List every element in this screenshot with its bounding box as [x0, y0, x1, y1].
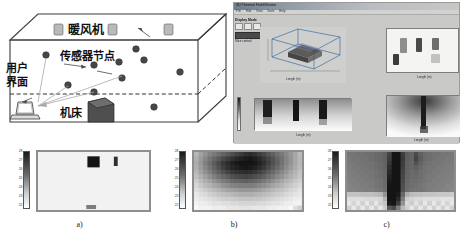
caption-a: a) [2, 220, 157, 229]
plot-top-view[interactable] [386, 28, 459, 73]
menu-item-edit[interactable]: Edit [246, 9, 252, 13]
label-heater: 暖风机 [68, 22, 104, 37]
colorbar-a-ticks: 28 27 26 25 24 23 22 [8, 150, 22, 210]
colorbar-c-ticks: 28 27 26 25 24 23 22 [317, 150, 331, 210]
checkbox-x[interactable] [235, 23, 243, 30]
plot-3d-svg [260, 27, 346, 83]
window-body: Display Mode Slice control [234, 15, 459, 144]
blob-5 [431, 54, 440, 63]
room-schematic-diagram: 暖风机 传感器节点 用户 界面 机床 [2, 2, 230, 142]
control-panel-heading: Display Mode [235, 18, 261, 22]
plot-section-view-xlabel: Length (m) [414, 138, 429, 142]
control-panel[interactable]: Display Mode Slice control [235, 18, 261, 43]
room-top-face [10, 14, 226, 40]
cb-b-tick-3: 25 [175, 176, 178, 180]
cb-a-tick-6: 22 [19, 203, 22, 207]
checkbox-y[interactable] [244, 23, 252, 30]
plot-3d-xlabel: Length (m) [286, 77, 301, 81]
menu-item-view[interactable]: View [256, 9, 263, 13]
label-machine-tool: 机床 [60, 106, 83, 120]
leader-line-machine [97, 71, 112, 74]
blob-3 [416, 38, 422, 52]
figure-container: 暖风机 传感器节点 用户 界面 机床 3D Thermal Field Moni… [0, 0, 464, 241]
plot-section-svg [387, 96, 460, 137]
cb-b-tick-4: 24 [175, 185, 178, 189]
subfigure-a: 28 27 26 25 24 23 22 a) [2, 148, 157, 241]
plot-strip-view[interactable] [254, 98, 351, 130]
colorbar-c-strip [332, 151, 339, 209]
cb-a-tick-1: 27 [19, 158, 22, 162]
plot-strip-view-xlabel: Length (m) [296, 133, 311, 137]
blob-4 [432, 38, 438, 50]
cb-c-tick-4: 24 [328, 185, 331, 189]
subfigure-c: 28 27 26 25 24 23 22 c) [311, 148, 462, 241]
software-window[interactable]: 3D Thermal Field Monitor File Edit View … [233, 2, 460, 143]
heatmap-b[interactable] [192, 150, 304, 212]
cb-a-tick-4: 24 [19, 185, 22, 189]
plot-section-view[interactable] [386, 95, 459, 136]
colorbar-b-strip [179, 151, 186, 209]
floor-plane-line-right [198, 68, 226, 94]
machine-tool-icon [88, 98, 114, 122]
colorbar-b-ticks: 28 27 26 25 24 23 22 [164, 150, 178, 210]
menu-item-file[interactable]: File [236, 9, 241, 13]
cb-c-tick-1: 27 [328, 158, 331, 162]
cb-a-tick-0: 28 [19, 149, 22, 153]
colorbar-c: 28 27 26 25 24 23 22 [317, 150, 343, 210]
cb-b-tick-6: 22 [175, 203, 178, 207]
menu-item-tools[interactable]: Tools [267, 9, 274, 13]
control-panel-caption: Slice control [235, 40, 261, 43]
menu-item-help[interactable]: Help [279, 9, 286, 13]
blob-1 [393, 54, 399, 65]
cb-b-tick-2: 26 [175, 167, 178, 171]
window-title: 3D Thermal Field Monitor [236, 2, 276, 7]
caption-c: c) [311, 220, 462, 229]
cb-a-tick-5: 23 [19, 194, 22, 198]
plot-3d-volume[interactable]: Length (m) [260, 27, 346, 83]
label-sensor-node: 传感器节点 [59, 49, 115, 63]
room-hidden-edge-1 [10, 14, 38, 40]
label-user-interface-line1: 用户 [6, 61, 28, 75]
subfigure-b: 28 27 26 25 24 23 22 b) [158, 148, 310, 241]
label-user-interface-line2: 界面 [6, 76, 28, 89]
plot-top-view-xlabel: Length (m) [417, 75, 432, 79]
heatmap-c[interactable] [345, 150, 456, 212]
room-svg: 暖风机 传感器节点 用户 界面 机床 [2, 2, 230, 142]
heatmap-a[interactable] [36, 150, 151, 212]
blob-2 [400, 38, 407, 53]
colorbar-a: 28 27 26 25 24 23 22 [8, 150, 34, 210]
start-monitor-button[interactable] [235, 32, 262, 39]
colorbar-a-strip [23, 151, 30, 209]
cb-c-tick-6: 22 [328, 203, 331, 207]
cb-b-tick-0: 28 [175, 149, 178, 153]
colorbar-strip-view [237, 97, 241, 131]
plot-strip-svg [255, 99, 352, 131]
caption-b: b) [158, 220, 310, 229]
cb-b-tick-1: 27 [175, 158, 178, 162]
room-right-face [198, 14, 226, 122]
user-interface-icon [10, 102, 40, 119]
cb-c-tick-5: 23 [328, 194, 331, 198]
leader-line-ui [22, 98, 32, 102]
cb-b-tick-5: 23 [175, 194, 178, 198]
control-panel-checkboxes[interactable] [235, 23, 261, 30]
cb-c-tick-0: 28 [328, 149, 331, 153]
cb-a-tick-2: 26 [19, 167, 22, 171]
cb-c-tick-2: 26 [328, 167, 331, 171]
cb-c-tick-3: 25 [328, 176, 331, 180]
cb-a-tick-3: 25 [19, 176, 22, 180]
colorbar-b: 28 27 26 25 24 23 22 [164, 150, 190, 210]
